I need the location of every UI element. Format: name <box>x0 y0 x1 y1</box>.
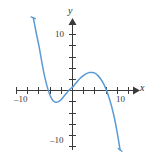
cubic-function-graph: –10 10 10 –10 x y <box>0 0 152 157</box>
curve-start-cap <box>31 17 35 19</box>
y-axis-label: y <box>68 6 72 16</box>
plot-area <box>0 0 152 157</box>
x-axis-arrow-icon <box>133 87 140 95</box>
cubic-curve <box>33 18 120 150</box>
y-tick-label-pos10: 10 <box>55 30 64 39</box>
x-tick-label-pos10: 10 <box>116 95 125 104</box>
x-axis-label: x <box>140 83 144 93</box>
y-axis-arrow-icon <box>69 18 77 25</box>
y-tick-label-neg10: –10 <box>50 136 64 145</box>
x-tick-label-neg10: –10 <box>14 95 28 104</box>
